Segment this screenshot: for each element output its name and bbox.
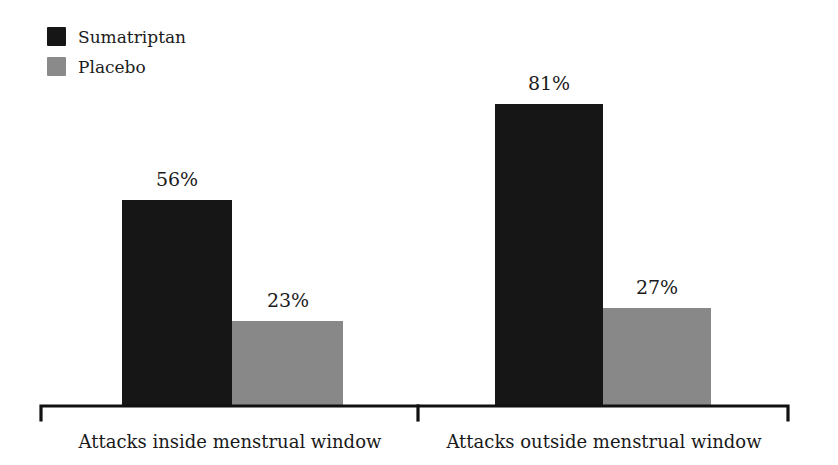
category-label-outside: Attacks outside menstrual window (445, 431, 762, 452)
value-label-sumatriptan-inside: 56% (156, 168, 198, 190)
bar-sumatriptan-outside (495, 104, 603, 406)
legend-label-sumatriptan: Sumatriptan (78, 27, 186, 47)
value-label-sumatriptan-outside: 81% (528, 72, 570, 94)
bar-chart-figure: Sumatriptan Placebo 56% 23% 81% 27% Atta… (0, 0, 838, 465)
bar-placebo-inside (232, 321, 343, 406)
bar-sumatriptan-inside (122, 200, 232, 406)
legend-swatch-sumatriptan (47, 27, 66, 46)
chart-canvas: Sumatriptan Placebo 56% 23% 81% 27% Atta… (0, 0, 838, 465)
legend-label-placebo: Placebo (78, 57, 146, 77)
legend-swatch-placebo (47, 57, 66, 76)
value-label-placebo-inside: 23% (267, 289, 309, 311)
category-label-inside: Attacks inside menstrual window (78, 431, 382, 452)
value-label-placebo-outside: 27% (636, 276, 678, 298)
bar-placebo-outside (603, 308, 711, 406)
